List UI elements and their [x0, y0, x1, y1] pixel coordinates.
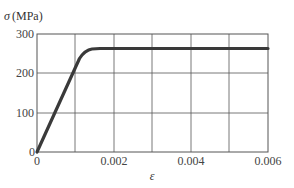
x-tick-0: 0 [34, 154, 40, 168]
grid [37, 34, 268, 152]
x-axis-label: ε [150, 169, 155, 183]
y-tick-100: 100 [16, 106, 34, 120]
x-tick-0.006: 0.006 [255, 154, 282, 168]
y-axis-label-unit: (MPa) [12, 9, 43, 23]
plot-frame [37, 34, 268, 152]
y-tick-300: 300 [16, 27, 34, 41]
y-tick-200: 200 [16, 66, 34, 80]
stress-strain-curve [37, 49, 268, 153]
x-tick-0.004: 0.004 [178, 154, 205, 168]
stress-strain-chart: 300 200 100 0 0 0.002 0.004 0.006 σ (MPa… [0, 0, 294, 188]
x-tick-0.002: 0.002 [101, 154, 128, 168]
y-axis-label-symbol: σ [4, 9, 11, 23]
